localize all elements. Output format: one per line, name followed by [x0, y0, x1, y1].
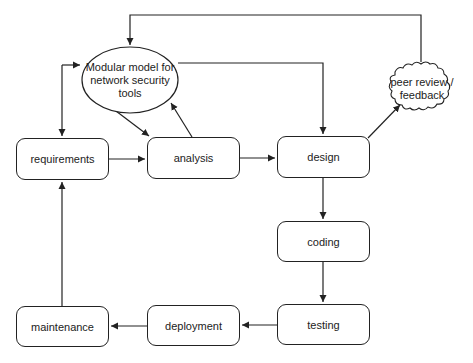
node-analysis-label: analysis [174, 152, 214, 164]
node-design[interactable]: design [277, 136, 370, 178]
edge-model-to-design [178, 63, 323, 134]
edge-analysis-to-model [171, 103, 192, 137]
node-analysis[interactable]: analysis [147, 137, 240, 179]
node-model[interactable]: Modular model for network security tools [84, 52, 176, 108]
node-peer-review[interactable]: peer review / feedback [386, 68, 458, 110]
node-testing[interactable]: testing [277, 304, 370, 345]
node-model-label: Modular model for network security tools [84, 61, 176, 100]
node-design-label: design [307, 151, 339, 163]
node-requirements-label: requirements [30, 153, 94, 165]
node-peer-review-label: peer review / feedback [386, 76, 458, 102]
node-deployment-label: deployment [165, 320, 222, 332]
node-coding-label: coding [307, 236, 339, 248]
node-requirements[interactable]: requirements [16, 138, 109, 180]
node-testing-label: testing [307, 319, 339, 331]
node-deployment[interactable]: deployment [147, 305, 240, 346]
node-coding[interactable]: coding [277, 221, 370, 262]
node-maintenance[interactable]: maintenance [16, 306, 109, 347]
node-maintenance-label: maintenance [31, 321, 94, 333]
